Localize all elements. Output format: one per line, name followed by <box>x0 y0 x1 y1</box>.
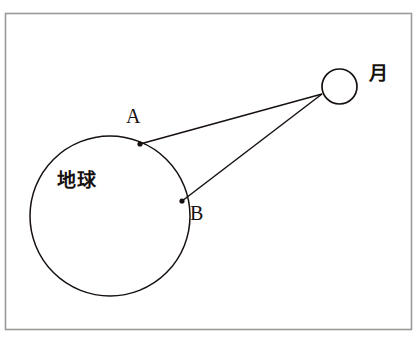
earth-label: 地球 <box>57 171 96 190</box>
point-b-marker <box>179 198 184 203</box>
moon-circle <box>322 69 357 104</box>
point-a-label: A <box>126 106 140 126</box>
moon-label: 月 <box>369 64 389 83</box>
point-b-label: B <box>190 203 203 223</box>
earth-circle <box>30 136 190 296</box>
point-a-marker <box>137 141 142 146</box>
sightline-b-to-moon <box>182 94 322 201</box>
sightline-a-to-moon <box>140 94 322 144</box>
diagram-canvas: A B 地球 月 <box>0 0 418 345</box>
